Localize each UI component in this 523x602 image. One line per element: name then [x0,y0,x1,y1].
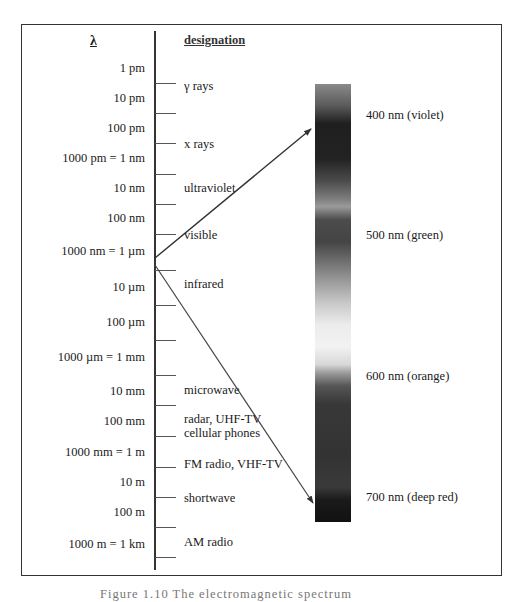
axis-tick [155,436,176,437]
axis-tick [155,557,176,558]
wavelength-label: 10 pm [113,91,145,105]
designation-label: infrared [184,277,224,291]
axis-tick [155,405,176,406]
axis-tick [155,527,176,528]
wavelength-label: 1 pm [120,61,145,75]
designation-label: cellular phones [184,426,260,440]
axis-tick [155,83,176,84]
visible-spectrum-bar [315,84,351,522]
designation-label: x rays [184,137,214,151]
designation-column-header: designation [184,33,245,48]
designation-label: visible [184,228,217,242]
designation-label: radar, UHF-TV [184,412,261,426]
designation-label: γ rays [184,79,213,93]
wavelength-axis [154,31,156,570]
wavelength-label: 100 pm [107,121,145,135]
axis-tick [155,467,176,468]
designation-label: FM radio, VHF-TV [184,457,283,471]
designation-label: ultraviolet [184,181,235,195]
wavelength-label: 10 m [120,475,145,489]
wavelength-label: 10 µm [112,280,145,294]
axis-tick [155,113,176,114]
wavelength-label: 1000 nm = 1 µm [61,244,145,258]
spectrum-wavelength-label: 600 nm (orange) [366,369,449,383]
designation-label: microwave [184,383,240,397]
wavelength-label: 100 mm [104,414,145,428]
axis-tick [155,174,176,175]
axis-tick [155,234,176,235]
axis-tick [155,375,176,376]
spectrum-wavelength-label: 700 nm (deep red) [366,490,458,504]
axis-tick [155,340,176,341]
wavelength-column-header: λ [90,33,97,49]
axis-tick [155,270,176,271]
wavelength-label: 100 nm [107,211,145,225]
wavelength-label: 100 m [113,505,145,519]
wavelength-label: 10 nm [113,181,145,195]
wavelength-label: 10 mm [110,384,145,398]
axis-tick [155,143,176,144]
wavelength-label: 1000 pm = 1 nm [62,151,145,165]
spectrum-wavelength-label: 400 nm (violet) [366,108,444,122]
wavelength-label: 1000 m = 1 km [69,537,146,551]
axis-tick [155,204,176,205]
designation-label: shortwave [184,491,235,505]
axis-tick [155,497,176,498]
axis-tick [155,305,176,306]
wavelength-label: 100 µm [106,315,145,329]
designation-label: AM radio [184,535,233,549]
wavelength-label: 1000 mm = 1 m [65,445,145,459]
figure-caption: Figure 1.10 The electromagnetic spectrum [100,587,352,602]
spectrum-wavelength-label: 500 nm (green) [366,228,443,242]
wavelength-label: 1000 µm = 1 mm [58,350,145,364]
